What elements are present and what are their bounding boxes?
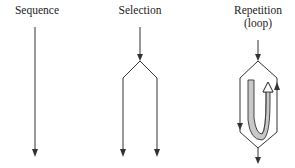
arrowhead-icon <box>154 149 160 157</box>
arrowhead-icon <box>32 149 38 157</box>
arrowhead-icon <box>255 54 261 61</box>
sequence-flow <box>32 27 38 157</box>
control-structures-diagram <box>0 0 295 168</box>
selection-flow <box>120 27 160 157</box>
arrowhead-icon <box>137 54 143 61</box>
arrowhead-icon <box>274 82 280 90</box>
repetition-flow <box>237 40 280 164</box>
arrowhead-icon <box>255 157 261 164</box>
arrowhead-icon <box>237 123 243 130</box>
arrowhead-icon <box>120 149 126 157</box>
